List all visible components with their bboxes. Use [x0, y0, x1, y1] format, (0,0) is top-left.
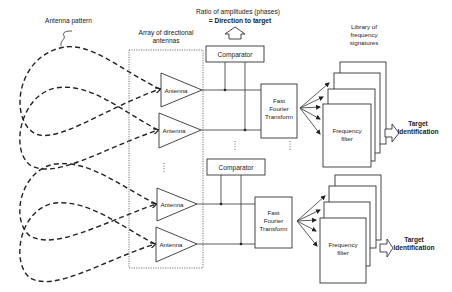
svg-text:Antenna: Antenna [160, 201, 184, 208]
svg-text:Antenna: Antenna [162, 127, 186, 134]
antenna-4: Antenna [156, 227, 197, 262]
lobe-3 [20, 164, 156, 240]
array-title-line2: antennas [152, 37, 180, 44]
radar-target-identification-diagram: Antenna pattern Array of directional ant… [0, 0, 452, 292]
lobe-1 [20, 47, 160, 136]
svg-text:filter: filter [341, 135, 353, 142]
target-identification-top-line2: Identification [397, 128, 438, 135]
fft-bottom: Fast Fourier Transform [255, 197, 292, 248]
svg-text:Frequency: Frequency [332, 127, 362, 134]
frequency-filter-stack-bottom: Frequency filter [320, 175, 381, 283]
svg-text:Antenna: Antenna [159, 241, 183, 248]
svg-text:Fourier: Fourier [264, 217, 284, 224]
fft-top: Fast Fourier Transform [261, 84, 297, 138]
lobe-2 [20, 87, 158, 169]
antenna-2: Antenna [159, 113, 201, 148]
svg-text:Fast: Fast [273, 97, 285, 104]
antenna-3: Antenna [157, 188, 197, 221]
library-label-line3: signatures [350, 39, 379, 46]
svg-text:Comparator: Comparator [218, 51, 254, 59]
svg-text:Fourier: Fourier [269, 105, 289, 112]
comparator-top: Comparator [206, 46, 264, 62]
target-output-arrow-bottom [380, 239, 393, 257]
svg-text:Transform: Transform [260, 225, 288, 232]
frequency-filter-stack-top: Frequency filter [323, 62, 386, 167]
svg-text:Antenna: Antenna [164, 87, 188, 94]
array-title-line1: Array of directional [139, 29, 195, 37]
lobe-4 [20, 203, 155, 282]
library-label-line1: Library of [351, 23, 377, 30]
svg-text:Fast: Fast [267, 209, 279, 216]
antenna-1: Antenna [161, 73, 202, 107]
top-wiring [201, 62, 261, 131]
svg-text:Comparator: Comparator [219, 164, 255, 172]
target-identification-top-line1: Target [408, 120, 428, 128]
library-label-line2: frequency [350, 31, 378, 38]
ratio-label-line1: Ratio of amplitudes (phases) [196, 8, 280, 16]
ratio-label-line2: = Direction to target [209, 17, 272, 25]
antenna-pattern-pointer [61, 31, 72, 46]
svg-text:filter: filter [337, 249, 349, 256]
comparator-bottom: Comparator [207, 159, 265, 175]
target-identification-bottom-line2: Identification [393, 244, 434, 251]
target-identification-bottom-line1: Target [404, 236, 424, 244]
svg-text:Transform: Transform [265, 113, 293, 120]
bottom-wiring [197, 175, 255, 245]
direction-output-arrow [225, 27, 245, 39]
antenna-pattern-lobes [20, 47, 160, 282]
antenna-pattern-label: Antenna pattern [45, 17, 92, 25]
svg-text:Frequency: Frequency [328, 241, 358, 248]
